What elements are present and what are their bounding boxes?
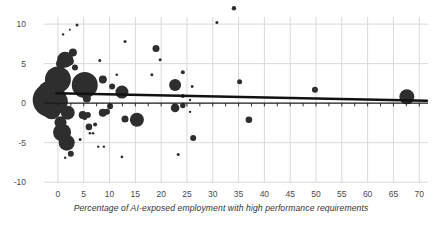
bubble xyxy=(86,124,93,131)
bubble xyxy=(72,65,78,71)
x-tick-label: 60 xyxy=(363,189,373,199)
bubble xyxy=(68,151,74,157)
x-tick-label: 5 xyxy=(81,189,86,199)
x-tick-label: 40 xyxy=(260,189,270,199)
bubble xyxy=(92,132,95,135)
bubble xyxy=(93,123,97,127)
bubble xyxy=(190,135,196,141)
bubble xyxy=(181,70,185,74)
x-tick-label: 10 xyxy=(105,189,115,199)
y-tick-label: -5 xyxy=(18,138,26,148)
trend-line xyxy=(56,93,427,101)
bubble xyxy=(59,135,75,151)
bubble xyxy=(62,33,64,35)
x-tick-label: 65 xyxy=(389,189,399,199)
bubble xyxy=(89,132,92,135)
bubble xyxy=(232,6,236,10)
bubble xyxy=(121,156,124,159)
bubble xyxy=(69,29,71,31)
bubble xyxy=(64,157,66,159)
bubble xyxy=(82,115,87,120)
bubble xyxy=(79,138,82,141)
bubble xyxy=(109,84,115,90)
bubble xyxy=(97,145,99,147)
bubble xyxy=(191,85,193,87)
bubble xyxy=(107,103,113,109)
bubble xyxy=(150,73,153,76)
bubble xyxy=(103,145,105,147)
x-tick-label: 35 xyxy=(234,189,244,199)
bubble xyxy=(83,94,91,102)
bubble xyxy=(171,104,180,113)
x-tick-label: 20 xyxy=(156,189,166,199)
bubble xyxy=(99,75,107,83)
bubble xyxy=(399,89,414,104)
bubble xyxy=(104,109,110,115)
bubble xyxy=(124,40,127,43)
y-tick-label: -10 xyxy=(14,177,27,187)
x-tick-label: 55 xyxy=(337,189,347,199)
bubble xyxy=(169,79,181,91)
x-tick-label: 15 xyxy=(131,189,141,199)
bubble xyxy=(159,58,162,61)
bubble xyxy=(115,86,128,99)
y-tick-label: 5 xyxy=(21,59,26,69)
x-tick-label: 70 xyxy=(414,189,424,199)
x-tick-label: 50 xyxy=(311,189,321,199)
bubble xyxy=(246,116,253,123)
x-tick-label: 0 xyxy=(56,189,61,199)
x-tick-label: 30 xyxy=(208,189,218,199)
bubble xyxy=(66,57,74,65)
bubble xyxy=(130,113,144,127)
bubble xyxy=(189,111,191,113)
bubble xyxy=(153,45,160,52)
x-axis-title: Percentage of AI-exposed employment with… xyxy=(0,203,442,213)
bubble xyxy=(76,23,79,26)
bubble xyxy=(177,153,180,156)
bubble xyxy=(312,87,318,93)
y-tick-label: 0 xyxy=(21,98,26,108)
bubble xyxy=(215,21,218,24)
bubble xyxy=(98,59,101,62)
bubble-chart-figure: 05101520253035404550556065701050-5-10 Pe… xyxy=(0,0,442,225)
y-tick-label: 10 xyxy=(17,19,27,29)
scatter-plot: 05101520253035404550556065701050-5-10 xyxy=(0,0,442,225)
x-tick-label: 25 xyxy=(182,189,192,199)
bubble xyxy=(189,99,191,101)
bubble xyxy=(115,73,118,76)
bubble xyxy=(122,115,129,122)
x-tick-label: 45 xyxy=(285,189,295,199)
bubble xyxy=(237,79,242,84)
